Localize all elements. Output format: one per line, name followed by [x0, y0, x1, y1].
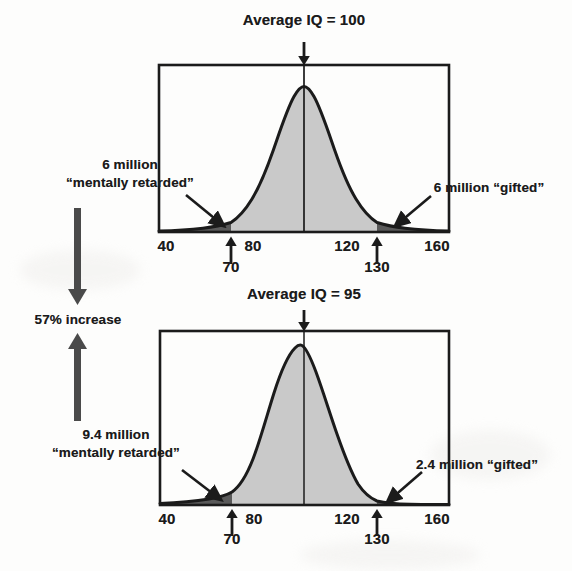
top-right-annotation-arrow-icon	[400, 196, 431, 222]
bottom-pointer-label-130: 130	[364, 531, 389, 548]
bottom-right-annotation: 2.4 million “gifted”	[416, 457, 538, 472]
panel-bottom	[160, 310, 449, 536]
bottom-left-annotation-line2: “mentally retarded”	[52, 445, 180, 460]
bottom-mean-arrow-down-icon	[298, 310, 310, 332]
increase-label: 57% increase	[35, 312, 122, 327]
top-panel-title: Average IQ = 100	[243, 12, 365, 29]
top-left-annotation-line2: “mentally retarded”	[66, 175, 194, 190]
top-xtick-40: 40	[158, 238, 175, 255]
top-xtick-80: 80	[245, 238, 262, 255]
top-mean-arrow-down-icon	[298, 42, 310, 66]
bottom-xtick-80: 80	[246, 511, 263, 528]
bottom-xtick-40: 40	[159, 511, 176, 528]
top-pointer-label-70: 70	[223, 259, 240, 276]
bottom-panel-title: Average IQ = 95	[247, 286, 361, 303]
top-pointer-label-130: 130	[364, 259, 389, 276]
top-left-annotation-line1: 6 million	[102, 157, 158, 172]
bottom-xtick-120: 120	[334, 511, 359, 528]
bottom-left-annotation-line1: 9.4 million	[82, 427, 149, 442]
top-right-annotation: 6 million “gifted”	[434, 180, 545, 195]
top-left-annotation-arrow-icon	[186, 195, 219, 222]
connector-arrow-down-icon	[68, 208, 87, 305]
top-xtick-160: 160	[424, 238, 449, 255]
connector-arrow-up-icon	[68, 333, 87, 421]
panel-top	[159, 42, 449, 264]
top-xtick-120: 120	[334, 238, 359, 255]
bottom-right-annotation-arrow-icon	[392, 472, 422, 498]
bottom-pointer-label-70: 70	[224, 531, 241, 548]
bottom-xtick-160: 160	[424, 511, 449, 528]
bottom-left-annotation-arrow-icon	[182, 470, 216, 496]
